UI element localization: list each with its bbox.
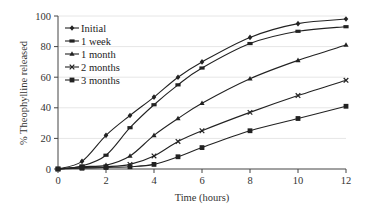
y-tick-label: 100 xyxy=(35,11,51,22)
x-tick-label: 4 xyxy=(151,175,157,186)
y-tick-label: 0 xyxy=(46,164,51,175)
legend-item: Initial xyxy=(65,23,106,34)
x-tick-label: 0 xyxy=(55,175,60,186)
x-tick-label: 10 xyxy=(293,175,304,186)
legend-label: 3 months xyxy=(81,75,120,86)
legend-item: 1 month xyxy=(65,49,116,60)
y-tick-label: 20 xyxy=(41,133,52,144)
series-3-months xyxy=(56,104,349,172)
x-axis-title: Time (hours) xyxy=(175,192,230,204)
legend-label: Initial xyxy=(81,23,106,34)
legend-item: 1 week xyxy=(65,36,112,47)
x-tick-label: 8 xyxy=(247,175,252,186)
legend-label: 1 month xyxy=(81,49,116,60)
y-axis-title: % Theophylline released xyxy=(18,40,29,145)
x-tick-label: 2 xyxy=(103,175,108,186)
legend: Initial1 week1 month2 months3 months xyxy=(65,23,120,86)
y-tick-label: 40 xyxy=(41,102,52,113)
x-tick-label: 6 xyxy=(199,175,204,186)
y-tick-label: 60 xyxy=(41,72,52,83)
legend-label: 1 week xyxy=(81,36,112,47)
legend-label: 2 months xyxy=(81,62,120,73)
x-tick-label: 12 xyxy=(341,175,352,186)
series-2-months xyxy=(56,78,349,171)
y-tick-label: 80 xyxy=(41,41,52,52)
legend-item: 2 months xyxy=(65,62,120,73)
line-chart: 020406080100024681012 Initial1 week1 mon… xyxy=(0,0,368,210)
legend-item: 3 months xyxy=(65,75,120,86)
